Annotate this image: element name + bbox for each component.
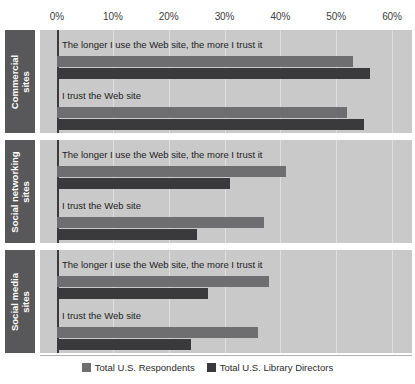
gridline-40 <box>280 140 281 243</box>
category-label: Commercialsites <box>9 54 31 108</box>
gridline-60 <box>392 250 393 353</box>
category-label-line: Commercial <box>9 54 20 108</box>
legend-item-1[interactable]: Total U.S. Library Directors <box>207 362 334 373</box>
x-tick-10: 10% <box>103 11 123 22</box>
category-label-line: Social networking <box>9 151 20 232</box>
series-label: I trust the Web site <box>62 200 141 211</box>
plot-area-2: The longer I use the Web site, the more … <box>40 250 412 353</box>
category-label: Social mediasites <box>9 272 31 330</box>
legend-swatch-icon <box>207 363 216 372</box>
bar-library-directors <box>57 119 364 130</box>
gridline-40 <box>280 250 281 353</box>
category-label-line: sites <box>20 272 31 330</box>
x-tick-40: 40% <box>270 11 290 22</box>
category-band-1: Social networkingsites <box>5 140 35 243</box>
gridline-50 <box>336 140 337 243</box>
plot-area-0: The longer I use the Web site, the more … <box>40 30 412 133</box>
x-axis-tick-labels: 0%10%20%30%40%50%60% <box>0 11 415 27</box>
legend-swatch-icon <box>82 363 91 372</box>
bar-library-directors <box>57 339 191 350</box>
gridline-60 <box>392 30 393 133</box>
series-label: The longer I use the Web site, the more … <box>62 259 262 270</box>
legend-label: Total U.S. Library Directors <box>220 362 334 373</box>
chart-legend: Total U.S. RespondentsTotal U.S. Library… <box>0 362 415 373</box>
bar-library-directors <box>57 288 208 299</box>
x-tick-20: 20% <box>159 11 179 22</box>
legend-item-0[interactable]: Total U.S. Respondents <box>82 362 195 373</box>
category-label-line: sites <box>20 54 31 108</box>
category-label: Social networkingsites <box>9 151 31 232</box>
bar-respondents <box>57 107 347 118</box>
legend-label: Total U.S. Respondents <box>95 362 195 373</box>
plot-area-1: The longer I use the Web site, the more … <box>40 140 412 243</box>
series-label: The longer I use the Web site, the more … <box>62 39 262 50</box>
gridline-50 <box>336 250 337 353</box>
gridline-60 <box>392 140 393 243</box>
bar-respondents <box>57 217 264 228</box>
bar-respondents <box>57 56 353 67</box>
category-label-line: sites <box>20 151 31 232</box>
series-label: I trust the Web site <box>62 310 141 321</box>
category-band-2: Social mediasites <box>5 250 35 353</box>
x-tick-50: 50% <box>326 11 346 22</box>
bar-respondents <box>57 327 258 338</box>
category-label-line: Social media <box>9 272 20 330</box>
bar-respondents <box>57 276 269 287</box>
x-tick-60: 60% <box>382 11 402 22</box>
x-tick-0: 0% <box>50 11 64 22</box>
plot-baseline <box>40 355 412 356</box>
bar-chart: 0%10%20%30%40%50%60% CommercialsitesThe … <box>0 0 415 384</box>
category-band-0: Commercialsites <box>5 30 35 133</box>
bar-library-directors <box>57 229 197 240</box>
series-label: I trust the Web site <box>62 90 141 101</box>
bar-respondents <box>57 166 286 177</box>
series-label: The longer I use the Web site, the more … <box>62 149 262 160</box>
x-tick-30: 30% <box>215 11 235 22</box>
bar-library-directors <box>57 178 230 189</box>
bar-library-directors <box>57 68 370 79</box>
